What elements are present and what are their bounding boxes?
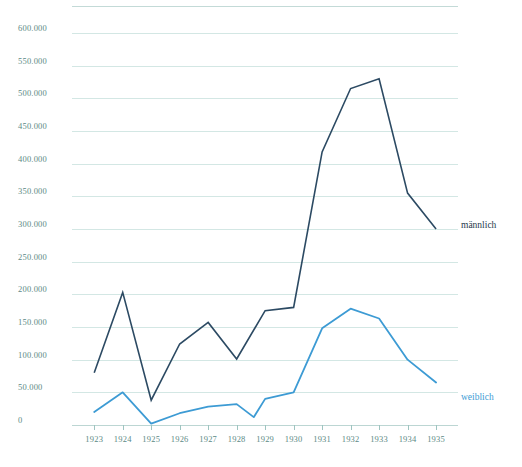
legend-label-weiblich: weiblich	[461, 392, 494, 402]
line-chart: 050.000100.000150.000200.000250.000300.0…	[0, 0, 522, 467]
series-line-maennlich	[94, 79, 436, 400]
legend-label-maennlich: männlich	[461, 220, 496, 230]
series-line-weiblich	[94, 309, 436, 424]
series-layer	[0, 0, 522, 467]
